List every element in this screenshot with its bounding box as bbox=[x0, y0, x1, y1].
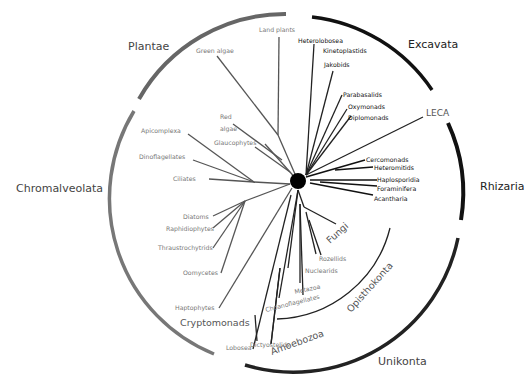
taxon-choanoflagellates: Choanoflagellates bbox=[265, 293, 321, 314]
rhizaria-branches bbox=[306, 160, 377, 195]
supergroup-label-plantae: Plantae bbox=[128, 40, 169, 53]
taxon-red-algae-line2: algae bbox=[220, 125, 237, 133]
rhizaria-taxa: Cercomonads Heteromitids Haplosporidia F… bbox=[366, 156, 420, 202]
taxon-heterolobosea: Heterolobosea bbox=[298, 37, 343, 44]
taxon-apicomplexa: Apicomplexa bbox=[141, 127, 181, 135]
opisthokonta-taxa: Rozellids Nuclearids Metazoa Choanoflage… bbox=[265, 255, 347, 314]
taxon-green-algae: Green algae bbox=[196, 47, 234, 55]
taxon-cercomonads: Cercomonads bbox=[366, 156, 408, 163]
supergroup-label-excavata: Excavata bbox=[408, 38, 458, 51]
taxon-lobosea: Lobosea bbox=[226, 344, 252, 351]
clade-label-fungi: Fungi bbox=[324, 220, 350, 245]
taxon-dictyostelids: Dictyostelids bbox=[250, 341, 290, 349]
phylogenetic-tree: Plantae Excavata Rhizaria Unikonta Chrom… bbox=[0, 0, 532, 385]
taxon-foraminifera: Foraminifera bbox=[377, 185, 416, 192]
supergroup-label-rhizaria: Rhizaria bbox=[480, 180, 525, 193]
taxon-thraustrochytrids: Thraustrochytrids bbox=[157, 244, 213, 252]
leca-root-node bbox=[290, 173, 306, 189]
taxon-rozellids: Rozellids bbox=[319, 255, 346, 262]
taxon-red-algae-line1: Red bbox=[220, 113, 232, 120]
taxon-oomycetes: Oomycetes bbox=[183, 269, 218, 277]
taxon-kinetoplastids: Kinetoplastids bbox=[323, 47, 367, 55]
chromalveolata-branches bbox=[188, 134, 292, 308]
taxon-glaucophytes: Glaucophytes bbox=[214, 139, 256, 147]
taxon-ciliates: Ciliates bbox=[173, 175, 196, 182]
leca-label: LECA bbox=[426, 108, 450, 118]
taxon-haplosporidia: Haplosporidia bbox=[377, 176, 420, 184]
taxon-heteromitids: Heteromitids bbox=[374, 164, 414, 171]
taxon-raphidiophytes: Raphidiophytes bbox=[166, 225, 214, 233]
plantae-branches bbox=[217, 37, 298, 181]
taxon-oxymonads: Oxymonads bbox=[348, 103, 385, 111]
taxon-haptophytes: Haptophytes bbox=[175, 304, 215, 312]
taxon-nuclearids: Nuclearids bbox=[305, 267, 338, 274]
taxon-acantharia: Acantharia bbox=[374, 195, 408, 202]
supergroup-label-chromalveolata: Chromalveolata bbox=[16, 182, 103, 195]
taxon-parabasalids: Parabasalids bbox=[343, 91, 382, 98]
taxon-land-plants: Land plants bbox=[259, 26, 295, 34]
chromalveolata-taxa: Apicomplexa Dinoflagellates Ciliates Dia… bbox=[139, 127, 218, 312]
taxon-diatoms: Diatoms bbox=[183, 213, 209, 220]
rhizaria-arc bbox=[448, 123, 463, 220]
clade-label-opisthokonta: Opisthokonta bbox=[344, 260, 394, 314]
supergroup-label-unikonta: Unikonta bbox=[378, 355, 427, 368]
taxon-jakobids: Jakobids bbox=[323, 61, 350, 69]
taxon-dinoflagellates: Dinoflagellates bbox=[139, 153, 185, 161]
taxon-diplomonads: Diplomonads bbox=[348, 114, 389, 122]
clade-label-cryptomonads: Cryptomonads bbox=[180, 317, 250, 328]
